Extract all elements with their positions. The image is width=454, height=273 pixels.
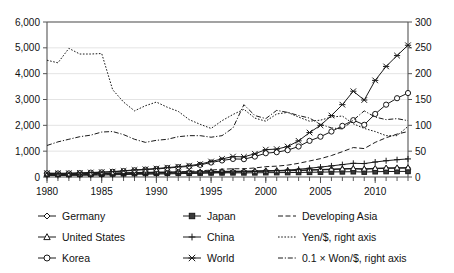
y-axis-right-tick-label: 150 [415, 94, 432, 105]
legend-item-germany: Germany [38, 210, 106, 222]
y-axis-right-tick-label: 200 [415, 68, 432, 79]
legend-item-0-1-won-right-axis: 0.1 × Won/$, right axis [278, 252, 407, 264]
marker-circle [296, 144, 301, 149]
x-axis: 1980198519901995200020052010 [36, 177, 408, 197]
y-axis-right-tick-label: 100 [415, 120, 432, 131]
y-axis-right: 050100150200250300 [408, 17, 432, 183]
marker-triangle [394, 165, 400, 170]
y-axis-right-tick-label: 250 [415, 42, 432, 53]
x-axis-tick-label: 2000 [255, 186, 278, 197]
marker-triangle [372, 165, 378, 170]
marker-circle [340, 123, 345, 128]
y-axis-left-tick-label: 3,000 [15, 94, 40, 105]
legend-label: Germany [62, 210, 106, 222]
y-axis-right-tick-label: 50 [415, 146, 427, 157]
legend-item-korea: Korea [38, 252, 90, 264]
marker-circle [318, 134, 323, 139]
y-axis-left-tick-label: 4,000 [15, 68, 40, 79]
series-path [47, 93, 408, 173]
x-axis-tick-label: 1995 [200, 186, 223, 197]
legend-label: Japan [207, 210, 236, 222]
y-axis-left-tick-label: 2,000 [15, 120, 40, 131]
chart-container: 01,0002,0003,0004,0005,0006,000 05010015… [0, 0, 454, 273]
marker-triangle [361, 166, 367, 171]
marker-square [189, 213, 194, 218]
legend-label: China [207, 231, 235, 243]
marker-triangle [405, 165, 411, 170]
y-axis-left-tick-label: 1,000 [15, 146, 40, 157]
marker-triangle [383, 165, 389, 170]
marker-circle [394, 96, 399, 101]
legend-label: Developing Asia [302, 210, 377, 222]
legend-label: World [207, 252, 234, 264]
x-axis-tick-label: 2010 [364, 186, 387, 197]
legend-label: United States [62, 231, 125, 243]
marker-circle [198, 162, 203, 167]
marker-diamond [44, 213, 50, 219]
marker-circle [362, 122, 367, 127]
x-axis-tick-label: 1980 [36, 186, 59, 197]
y-axis-right-tick-label: 0 [415, 172, 421, 183]
marker-circle [329, 129, 334, 134]
y-axis-left: 01,0002,0003,0004,0005,0006,000 [15, 17, 47, 183]
data-series-group [44, 42, 411, 178]
marker-circle [187, 164, 192, 169]
y-axis-right-tick-label: 300 [415, 17, 432, 28]
marker-circle [405, 90, 410, 95]
legend-item-developing-asia: Developing Asia [278, 210, 377, 222]
x-axis-tick-label: 1990 [145, 186, 168, 197]
y-axis-left-tick-label: 6,000 [15, 17, 40, 28]
marker-circle [44, 255, 50, 261]
legend-item-yen-right-axis: Yen/$, right axis [278, 231, 376, 243]
series-world [44, 42, 411, 176]
legend-label: 0.1 × Won/$, right axis [302, 252, 407, 264]
legend-item-world: World [183, 252, 234, 264]
legend-label: Korea [62, 252, 90, 264]
marker-circle [384, 102, 389, 107]
y-axis-left-tick-label: 0 [34, 172, 40, 183]
legend-label: Yen/$, right axis [302, 231, 376, 243]
x-axis-tick-label: 2005 [309, 186, 332, 197]
chart-legend: GermanyJapanDeveloping AsiaUnited States… [38, 210, 407, 264]
legend-item-china: China [183, 231, 235, 243]
legend-item-united-states: United States [38, 231, 125, 243]
series-path [47, 45, 408, 173]
x-axis-tick-label: 1985 [91, 186, 114, 197]
line-chart: 01,0002,0003,0004,0005,0006,000 05010015… [0, 0, 454, 273]
y-axis-left-tick-label: 5,000 [15, 42, 40, 53]
legend-item-japan: Japan [183, 210, 236, 222]
marker-circle [307, 138, 312, 143]
